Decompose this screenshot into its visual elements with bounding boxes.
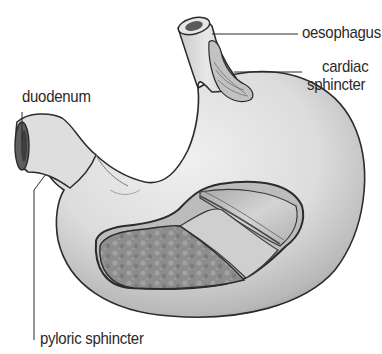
oesophagus-label: oesophagus	[302, 24, 381, 42]
stomach-diagram: oesophagus cardiac sphincter duodenum py…	[0, 0, 382, 354]
stomach-illustration	[0, 0, 382, 354]
cardiac-sphincter-label-line2: sphincter	[307, 76, 365, 94]
pyloric-sphincter-label: pyloric sphincter	[40, 330, 144, 348]
cardiac-sphincter-label-line1: cardiac	[322, 58, 368, 76]
duodenum-label: duodenum	[22, 88, 91, 106]
pyloric-sphincter-leader-line	[34, 174, 46, 340]
